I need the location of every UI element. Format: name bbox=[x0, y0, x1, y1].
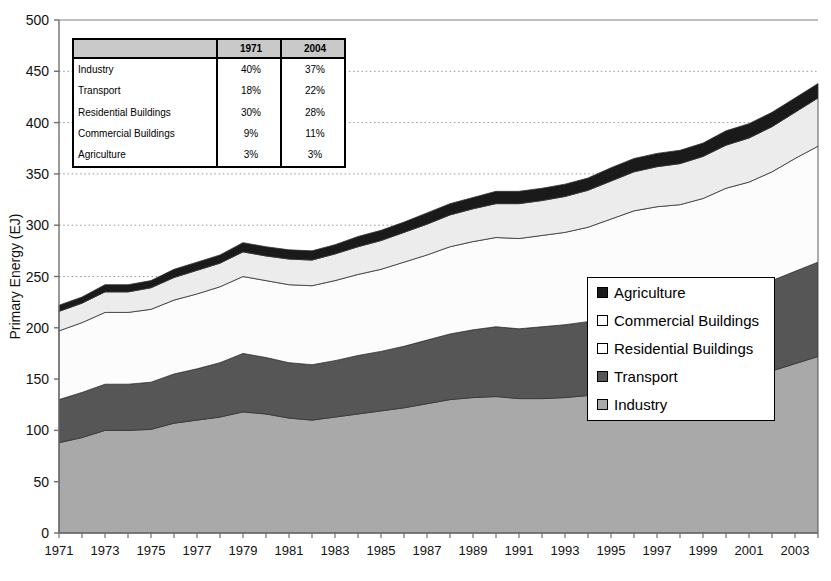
x-axis-tick-label: 1977 bbox=[183, 543, 212, 558]
table-cell-sector: Residential Buildings bbox=[74, 102, 217, 123]
y-axis-ticks: 050100150200250300350400450500 bbox=[26, 12, 50, 541]
x-axis-tick-label: 1997 bbox=[643, 543, 672, 558]
table-cell-2004: 28% bbox=[281, 102, 344, 123]
table-cell-sector: Transport bbox=[74, 81, 217, 102]
table-cell-1971: 3% bbox=[217, 145, 281, 166]
legend-item-commercial-buildings: Commercial Buildings bbox=[588, 306, 774, 334]
x-axis-ticks: 1971197319751977197919811983198519871989… bbox=[45, 543, 810, 558]
y-axis-tick-label: 300 bbox=[26, 217, 50, 233]
legend-swatch-transport bbox=[597, 371, 608, 382]
table-cell-sector: Industry bbox=[74, 58, 217, 81]
table-cell-2004: 11% bbox=[281, 123, 344, 144]
table-row: Residential Buildings 30% 28% bbox=[74, 102, 344, 123]
x-axis-tick-label: 1985 bbox=[367, 543, 396, 558]
table-cell-1971: 40% bbox=[217, 58, 281, 81]
table-header-blank bbox=[74, 40, 217, 58]
table-header-row: 1971 2004 bbox=[74, 40, 344, 58]
x-axis-tick-label: 1983 bbox=[321, 543, 350, 558]
table-header-2004: 2004 bbox=[281, 40, 344, 58]
legend-item-industry: Industry bbox=[588, 390, 774, 418]
x-axis-tick-label: 1973 bbox=[91, 543, 120, 558]
y-axis-tick-label: 400 bbox=[26, 115, 50, 131]
x-axis-tick-label: 1991 bbox=[505, 543, 534, 558]
table-header-1971: 1971 bbox=[217, 40, 281, 58]
table-row: Commercial Buildings 9% 11% bbox=[74, 123, 344, 144]
table-cell-2004: 22% bbox=[281, 81, 344, 102]
y-axis-tick-label: 200 bbox=[26, 320, 50, 336]
legend-item-transport: Transport bbox=[588, 362, 774, 390]
table-cell-sector: Agriculture bbox=[74, 145, 217, 166]
x-axis-tick-label: 1999 bbox=[689, 543, 718, 558]
y-axis-title: Primary Energy (EJ) bbox=[7, 213, 23, 339]
table-row: Agriculture 3% 3% bbox=[74, 145, 344, 166]
x-axis-tick-label: 1995 bbox=[597, 543, 626, 558]
chart-figure: 050100150200250300350400450500 197119731… bbox=[0, 0, 831, 581]
y-axis-tick-label: 100 bbox=[26, 422, 50, 438]
table-cell-1971: 9% bbox=[217, 123, 281, 144]
y-axis-tick-label: 500 bbox=[26, 12, 50, 28]
x-axis-tick-label: 1993 bbox=[551, 543, 580, 558]
legend-label-agriculture: Agriculture bbox=[614, 285, 686, 300]
table-cell-sector: Commercial Buildings bbox=[74, 123, 217, 144]
y-axis-tick-label: 250 bbox=[26, 269, 50, 285]
legend-item-residential-buildings: Residential Buildings bbox=[588, 334, 774, 362]
x-axis-tick-label: 1971 bbox=[45, 543, 74, 558]
chart-legend: Agriculture Commercial Buildings Residen… bbox=[587, 277, 775, 421]
y-axis-tick-label: 350 bbox=[26, 166, 50, 182]
legend-swatch-commercial-buildings bbox=[597, 315, 608, 326]
y-axis-tick-label: 50 bbox=[33, 474, 49, 490]
legend-label-industry: Industry bbox=[614, 397, 667, 412]
x-axis-tick-label: 1975 bbox=[137, 543, 166, 558]
table-cell-1971: 18% bbox=[217, 81, 281, 102]
x-axis-tick-label: 1979 bbox=[229, 543, 258, 558]
y-axis-title-text: Primary Energy (EJ) bbox=[7, 213, 23, 339]
y-axis-tick-label: 150 bbox=[26, 371, 50, 387]
legend-label-transport: Transport bbox=[614, 369, 678, 384]
legend-label-residential-buildings: Residential Buildings bbox=[614, 341, 753, 356]
y-axis-tick-label: 450 bbox=[26, 63, 50, 79]
sector-share-table: 1971 2004 Industry 40% 37% Transport 18%… bbox=[72, 38, 346, 168]
table-row: Industry 40% 37% bbox=[74, 58, 344, 81]
table-cell-2004: 37% bbox=[281, 58, 344, 81]
x-axis-tick-label: 1981 bbox=[275, 543, 304, 558]
x-axis-tick-label: 1987 bbox=[413, 543, 442, 558]
legend-label-commercial-buildings: Commercial Buildings bbox=[614, 313, 759, 328]
x-axis-tick-label: 1989 bbox=[459, 543, 488, 558]
table-row: Transport 18% 22% bbox=[74, 81, 344, 102]
legend-item-agriculture: Agriculture bbox=[588, 278, 774, 306]
table-cell-2004: 3% bbox=[281, 145, 344, 166]
x-axis-tick-label: 2001 bbox=[735, 543, 764, 558]
legend-swatch-agriculture bbox=[597, 287, 608, 298]
legend-swatch-residential-buildings bbox=[597, 343, 608, 354]
y-axis-tick-label: 0 bbox=[41, 525, 49, 541]
legend-swatch-industry bbox=[597, 399, 608, 410]
x-axis-tick-label: 2003 bbox=[781, 543, 810, 558]
table-cell-1971: 30% bbox=[217, 102, 281, 123]
